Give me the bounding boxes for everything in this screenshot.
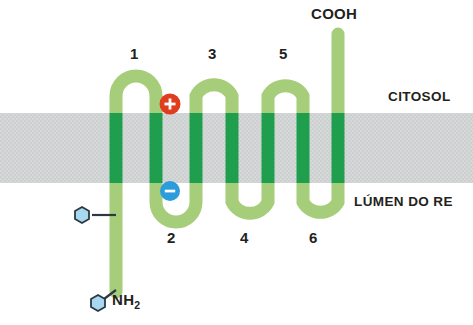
c-terminus-label: COOH (311, 6, 357, 21)
helix-number-3: 3 (208, 46, 216, 61)
n-terminus-subscript: 2 (134, 299, 140, 311)
figure-canvas: CITOSOL LÚMEN DO RE COOH NH2 1 3 5 2 4 6 (0, 0, 473, 325)
negative-charge-marker (160, 181, 180, 201)
n-terminus-text: NH (112, 291, 134, 308)
n-terminus-label: NH2 (112, 292, 140, 311)
helix-number-2: 2 (167, 230, 175, 245)
helix-number-5: 5 (279, 46, 287, 61)
transmembrane-protein-diagram (0, 0, 473, 325)
helix-number-4: 4 (240, 230, 248, 245)
er-lumen-label: LÚMEN DO RE (354, 195, 453, 209)
helix-number-1: 1 (130, 46, 138, 61)
cytosol-label: CITOSOL (388, 90, 451, 104)
helix-number-6: 6 (309, 230, 317, 245)
positive-charge-marker (160, 94, 181, 115)
